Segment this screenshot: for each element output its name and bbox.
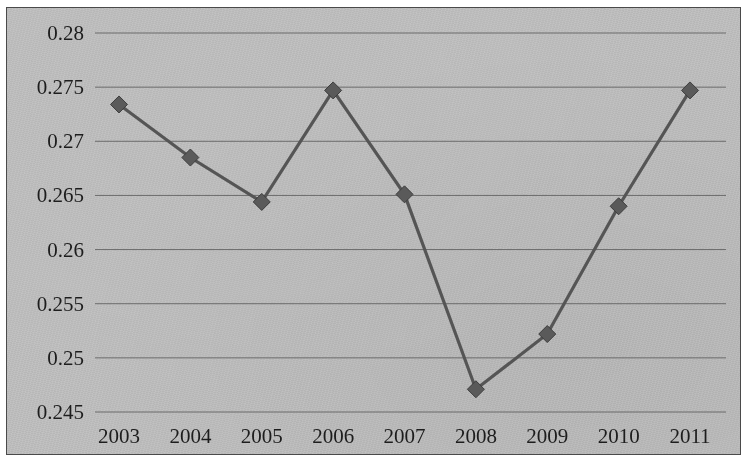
y-axis-tick-label: 0.245 — [37, 400, 84, 424]
x-axis-tick-label: 2009 — [526, 424, 568, 448]
x-axis-tick-labels: 200320042005200620072008200920102011 — [98, 424, 711, 448]
chart-canvas: 0.280.2750.270.2650.260.2550.250.245 200… — [0, 0, 747, 462]
y-axis-tick-label: 0.28 — [47, 21, 84, 45]
x-axis-tick-label: 2003 — [98, 424, 140, 448]
y-axis-tick-labels: 0.280.2750.270.2650.260.2550.250.245 — [37, 21, 84, 424]
data-point-marker — [682, 82, 699, 99]
data-series-line — [119, 90, 690, 389]
x-axis-tick-label: 2005 — [241, 424, 283, 448]
y-axis-tick-label: 0.26 — [47, 238, 84, 262]
x-axis-tick-label: 2011 — [669, 424, 710, 448]
data-point-marker — [610, 198, 627, 215]
x-axis-tick-label: 2010 — [598, 424, 640, 448]
y-axis-tick-label: 0.275 — [37, 75, 84, 99]
y-axis-tick-label: 0.265 — [37, 183, 84, 207]
x-axis-tick-label: 2008 — [455, 424, 497, 448]
x-axis-tick-label: 2007 — [384, 424, 426, 448]
x-axis-tick-label: 2004 — [169, 424, 212, 448]
data-point-markers — [111, 82, 699, 398]
y-axis-tick-label: 0.25 — [47, 346, 84, 370]
line-chart-image: 0.280.2750.270.2650.260.2550.250.245 200… — [0, 0, 747, 462]
y-axis-tick-label: 0.27 — [47, 129, 84, 153]
data-point-marker — [253, 193, 270, 210]
gridlines — [95, 33, 726, 412]
x-axis-tick-label: 2006 — [312, 424, 354, 448]
y-axis-tick-label: 0.255 — [37, 292, 84, 316]
